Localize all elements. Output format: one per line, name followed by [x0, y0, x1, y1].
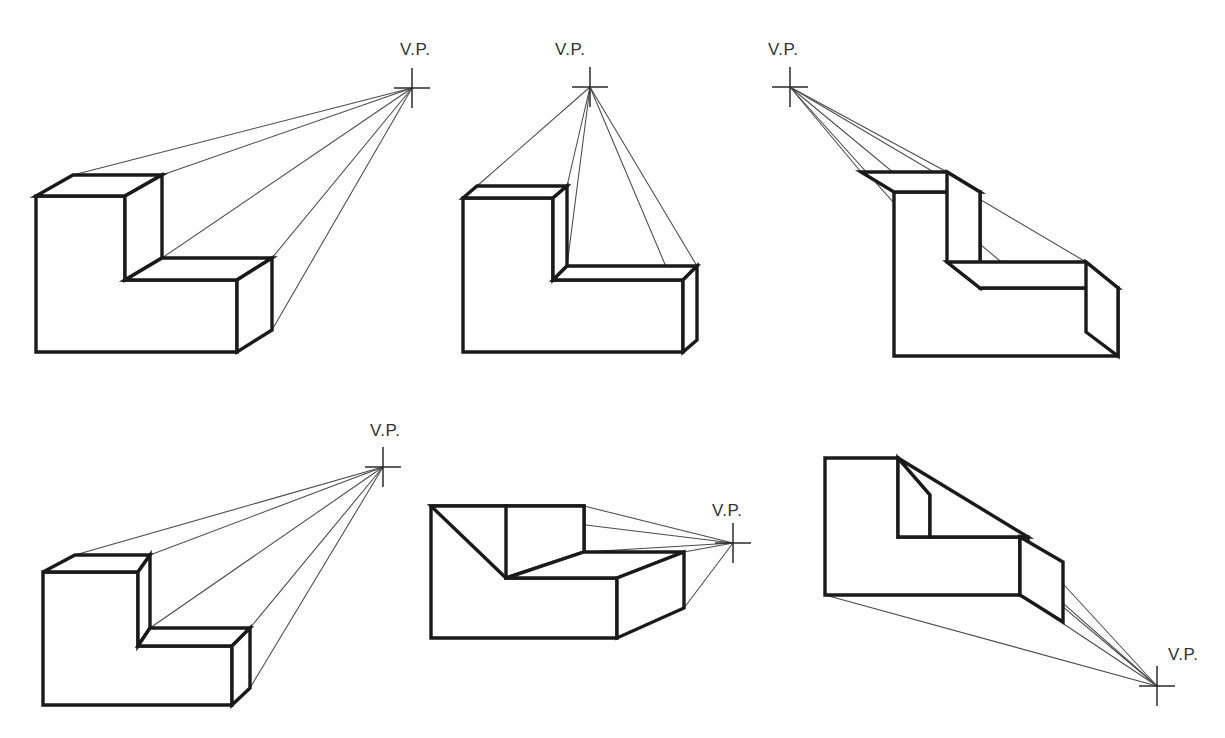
perspective-ray-5	[825, 595, 1157, 686]
perspective-ray-5	[272, 88, 412, 330]
perspective-ray-3	[162, 88, 412, 258]
vp-label: V.P.	[370, 421, 400, 440]
block-faces	[43, 555, 250, 705]
block-faces	[825, 458, 1063, 622]
perspective-ray-3	[567, 87, 590, 266]
block-faces	[36, 175, 272, 352]
perspective-ray-1	[477, 87, 590, 186]
perspective-figures-canvas: V.P.V.P.V.P.V.P.V.P.V.P.	[0, 0, 1225, 738]
perspective-ray-2	[567, 87, 590, 186]
face-side-right	[1020, 537, 1063, 622]
vanishing-point-marker[interactable]	[715, 523, 751, 563]
vanishing-point-marker[interactable]	[572, 67, 608, 107]
perspective-ray-4	[250, 467, 383, 628]
vp-label: V.P.	[555, 40, 585, 59]
face-top-small	[43, 555, 150, 572]
perspective-ray-2	[584, 506, 733, 543]
perspective-ray-2	[162, 88, 412, 175]
vanishing-point-marker[interactable]	[394, 68, 430, 108]
perspective-ray-2	[790, 87, 947, 172]
perspective-ray-3	[150, 467, 383, 628]
block-faces	[431, 506, 684, 638]
figure-3: V.P.	[768, 40, 1118, 356]
perspective-ray-4	[272, 88, 412, 258]
drawing-sheet: V.P.V.P.V.P.V.P.V.P.V.P.	[0, 0, 1225, 738]
figure-5: V.P.	[431, 501, 751, 638]
vp-label: V.P.	[1168, 645, 1198, 664]
figure-2: V.P.	[463, 40, 697, 352]
face-top-small	[463, 186, 567, 198]
perspective-ray-1	[790, 87, 861, 172]
face-top-long	[553, 266, 697, 280]
block-faces	[861, 172, 1118, 356]
vp-label: V.P.	[400, 40, 430, 59]
figure-4: V.P.	[43, 421, 401, 705]
face-side-right	[683, 266, 697, 352]
perspective-ray-5	[684, 543, 733, 608]
figure-6: V.P.	[825, 458, 1198, 706]
perspective-ray-1	[75, 467, 383, 555]
figure-1: V.P.	[36, 40, 430, 352]
perspective-ray-2	[150, 467, 383, 555]
vanishing-point-marker[interactable]	[365, 447, 401, 487]
perspective-ray-4	[590, 87, 697, 266]
vp-label: V.P.	[768, 40, 798, 59]
block-faces	[463, 186, 697, 352]
perspective-ray-5	[250, 467, 383, 688]
perspective-ray-1	[73, 88, 412, 175]
vp-label: V.P.	[712, 501, 742, 520]
